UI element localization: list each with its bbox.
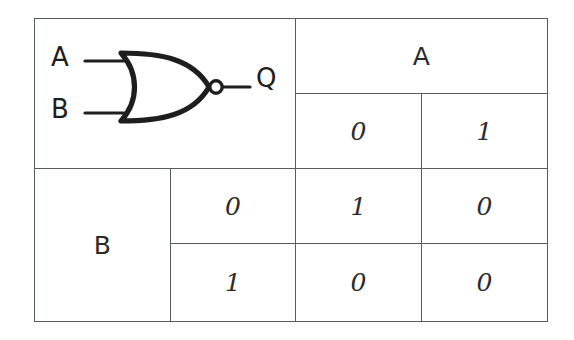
row-header-b-0-value: 0	[225, 194, 241, 219]
cell-a0-b1-value: 0	[351, 270, 367, 295]
cell-a1-b0-value: 0	[477, 194, 493, 219]
row-header-b-1-value: 1	[225, 270, 241, 295]
table-row-b-0: B 0 1 0	[35, 169, 548, 244]
col-header-a-0: 0	[296, 94, 422, 169]
gate-input-a-label: A	[51, 44, 69, 70]
row-header-b-0: 0	[171, 169, 296, 244]
col-var-header-a: A	[296, 19, 548, 94]
nor-gate-icon	[35, 19, 296, 169]
table-row-a-header: A B Q	[35, 19, 548, 94]
col-var-label: A	[413, 44, 431, 69]
cell-a1-b1: 0	[422, 244, 548, 322]
col-header-a-1-value: 1	[477, 119, 493, 144]
nor-gate-figure: A B Q	[35, 19, 296, 169]
cell-a1-b0: 0	[422, 169, 548, 244]
cell-a1-b1-value: 0	[477, 270, 493, 295]
col-header-a-1: 1	[422, 94, 548, 169]
gate-diagram-cell: A B Q	[35, 19, 296, 169]
row-var-header-b: B	[35, 169, 171, 322]
row-header-b-1: 1	[171, 244, 296, 322]
gate-output-q-label: Q	[256, 65, 276, 91]
cell-a0-b0-value: 1	[351, 194, 367, 219]
cell-a0-b0: 1	[296, 169, 422, 244]
nor-truth-table: A B Q	[34, 18, 548, 322]
col-header-a-0-value: 0	[351, 119, 367, 144]
row-var-label: B	[94, 233, 112, 258]
gate-input-b-label: B	[51, 96, 69, 122]
cell-a0-b1: 0	[296, 244, 422, 322]
